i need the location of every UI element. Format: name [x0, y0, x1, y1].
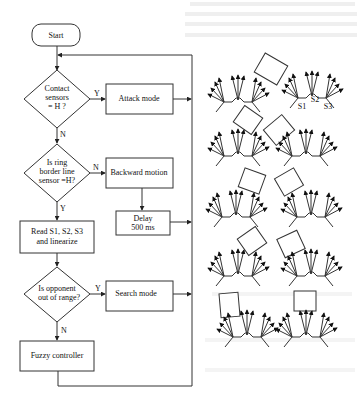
scenario-8 [277, 230, 342, 286]
read-line2: and linearize [36, 237, 78, 246]
process-backward-motion: Backward motion [106, 158, 173, 188]
decision-border-line2: border line [40, 167, 75, 176]
decision-contact-line1: Contact [45, 84, 71, 93]
opponent-box [274, 168, 303, 196]
process-delay: Delay 500 ms [116, 211, 170, 235]
label-contact-yes: Y [94, 89, 100, 98]
sensor-label-s3: S3 [324, 102, 332, 111]
opponent-box [294, 291, 316, 311]
label-contact-no: N [60, 130, 66, 139]
scenario-5 [206, 168, 267, 227]
opponent-box [219, 292, 240, 318]
robot-sensor-array-icon [281, 190, 342, 227]
delay-line2: 500 ms [131, 223, 154, 232]
decision-contact-line2: sensors [45, 93, 69, 102]
scenario-3 [208, 105, 269, 166]
robot-scenarios: S1 S2 S3 [206, 53, 343, 347]
label-range-no: N [61, 326, 67, 335]
diagram-canvas: Start Contact sensors = H ? Y Attack mod… [0, 0, 361, 405]
backward-motion-label: Backward motion [110, 168, 167, 177]
read-line1: Read S1, S2, S3 [31, 227, 83, 236]
process-attack-mode: Attack mode [106, 84, 173, 114]
scenario-1 [208, 53, 288, 112]
search-mode-label: Search mode [115, 289, 157, 298]
robot-sensor-array-icon [206, 190, 267, 227]
decision-border-line3: sensor =H? [39, 176, 76, 185]
decision-ring-border: Is ring border line sensor =H? [24, 144, 90, 202]
label-border-no: N [93, 163, 99, 172]
opponent-box [237, 226, 266, 255]
start-label: Start [48, 31, 64, 40]
scenario-2: S1 S2 S3 [282, 71, 343, 111]
robot-sensor-array-icon [208, 75, 269, 112]
delay-line1: Delay [133, 214, 152, 223]
decision-range-line2: out of range? [38, 293, 81, 302]
decision-contact-line3: = H ? [48, 102, 66, 111]
robot-sensor-array-icon [208, 249, 269, 286]
scenario-4 [263, 115, 337, 166]
start-node: Start [32, 24, 80, 46]
process-fuzzy-controller: Fuzzy controller [20, 341, 94, 371]
opponent-box [263, 115, 294, 146]
opponent-box [238, 168, 266, 194]
fuzzy-controller-label: Fuzzy controller [31, 351, 84, 360]
label-range-yes: Y [95, 284, 101, 293]
attack-mode-label: Attack mode [118, 94, 160, 103]
decision-contact-sensors: Contact sensors = H ? [24, 70, 90, 128]
decision-border-line1: Is ring [47, 158, 68, 167]
label-border-yes: Y [60, 204, 66, 213]
opponent-box [277, 230, 305, 257]
decision-range-line1: Is opponent [38, 284, 76, 293]
scenario-7 [208, 226, 269, 286]
opponent-box [254, 53, 288, 85]
process-search-mode: Search mode [106, 281, 173, 311]
robot-sensor-array-icon [208, 129, 269, 166]
flowchart: Start Contact sensors = H ? Y Attack mod… [20, 24, 192, 386]
sensor-label-s2: S2 [311, 95, 319, 104]
scenario-6 [274, 168, 342, 227]
sensor-label-s1: S1 [298, 102, 306, 111]
decision-opponent-range: Is opponent out of range? [24, 267, 90, 322]
process-read-sensors: Read S1, S2, S3 and linearize [20, 221, 94, 253]
